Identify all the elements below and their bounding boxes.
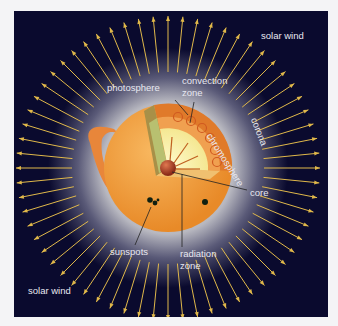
- sun-core: [160, 160, 176, 176]
- label-solar-wind-top: solar wind: [261, 30, 304, 41]
- sun-diagram: [14, 11, 328, 317]
- label-photosphere: photosphere: [107, 82, 160, 93]
- label-radiation-zone-2: zone: [180, 260, 201, 271]
- label-convection-zone-1: convection: [182, 75, 227, 86]
- label-radiation-zone-1: radiation: [180, 248, 216, 259]
- diagram-panel: solar wind solar wind photosphere convec…: [14, 11, 328, 317]
- label-core: core: [250, 187, 268, 198]
- label-sunspots: sunspots: [110, 246, 148, 257]
- label-solar-wind-bottom: solar wind: [28, 285, 71, 296]
- label-convection-zone-2: zone: [182, 87, 203, 98]
